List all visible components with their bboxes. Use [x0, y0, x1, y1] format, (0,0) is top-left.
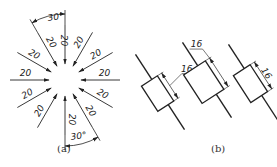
inclined-part-b3: 16 [228, 44, 277, 119]
dimension-text: 20 [20, 68, 32, 78]
technical-drawing: 20202020202020202020202030°30° 161616 [0, 0, 277, 167]
radial-dimension: 20 [65, 96, 77, 135]
radial-dimension: 20 [10, 68, 49, 80]
extension-line [268, 88, 274, 92]
caption-a: (a) [57, 143, 71, 154]
dimension-text: 20 [67, 114, 77, 126]
diagram-canvas: 20202020202020202020202030°30° 161616 (a… [0, 0, 277, 167]
extension-line [174, 97, 180, 101]
dimension-text: 16 [259, 66, 274, 81]
radial-dimension: 20 [59, 25, 69, 64]
extension-line [224, 85, 230, 89]
extension-line [30, 19, 38, 32]
inclined-part-b1: 16 [135, 54, 193, 129]
radial-dimension: 20 [32, 94, 57, 128]
extension-line [93, 128, 101, 141]
caption-b: (b) [211, 143, 225, 154]
dimension-text: 20 [99, 68, 111, 78]
radial-dimension: 20 [79, 86, 113, 107]
figure-b-inclined-dimensions: 161616 [135, 39, 277, 130]
radial-dimension: 20 [38, 32, 59, 66]
radial-dimension: 20 [81, 68, 120, 80]
dimension-text: 20 [59, 35, 69, 47]
radial-dimension: 20 [71, 32, 92, 66]
figure-a-radial-dimensions: 20202020202020202020202030°30° [10, 10, 120, 150]
angle-label-top: 30° [47, 11, 64, 23]
radial-dimension: 20 [17, 86, 51, 107]
angle-label-bottom: 30° [70, 130, 87, 142]
inclined-part-b2: 16 [182, 39, 231, 118]
dimension-text: 16 [191, 39, 203, 49]
